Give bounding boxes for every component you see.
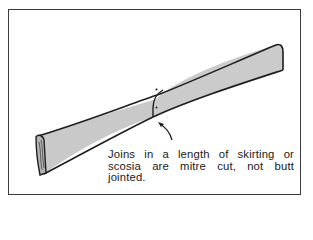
pointer-arrow-icon xyxy=(160,124,172,140)
board-right-section xyxy=(153,44,283,117)
nail-head-bottom xyxy=(156,107,158,109)
nail-head-top xyxy=(156,89,158,91)
figure-caption: Joins in a length of skirting or scosia … xyxy=(108,149,294,184)
